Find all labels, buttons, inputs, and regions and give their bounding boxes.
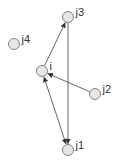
- edge-i-to-j3: [45, 22, 66, 65]
- node-j3: j3: [63, 6, 85, 23]
- node-label-j1: j1: [75, 139, 85, 151]
- node-j1: j1: [63, 139, 85, 156]
- edges-layer: [44, 22, 90, 144]
- node-circle-j1: [63, 145, 74, 156]
- node-j4: j4: [9, 33, 31, 50]
- node-circle-j4: [9, 39, 20, 50]
- edge-i-to-j1: [44, 77, 66, 145]
- node-circle-j3: [63, 12, 74, 23]
- node-label-i: i: [50, 60, 52, 72]
- node-circle-j2: [90, 89, 101, 100]
- nodes-layer: j3j4ij2j1: [9, 6, 112, 156]
- node-label-j4: j4: [21, 33, 31, 45]
- node-j2: j2: [90, 83, 112, 100]
- node-label-j3: j3: [75, 6, 85, 18]
- node-circle-i: [37, 66, 48, 77]
- node-label-j2: j2: [102, 83, 112, 95]
- graph-canvas: j3j4ij2j1: [0, 0, 118, 162]
- edge-j2-to-i: [48, 73, 90, 91]
